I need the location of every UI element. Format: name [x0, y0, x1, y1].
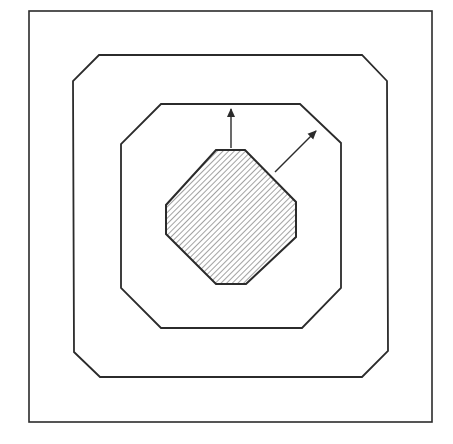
offset-contour-diagram [0, 0, 453, 444]
diagram-svg [0, 0, 453, 444]
diagonal-growth-arrow [275, 131, 316, 172]
